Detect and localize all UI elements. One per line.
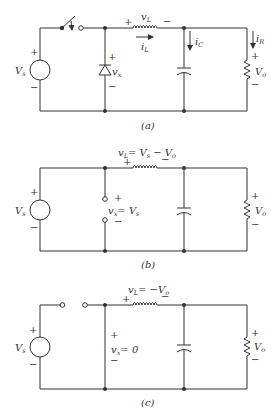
inductor-current-label: iL	[141, 41, 149, 54]
inductor-minus: −	[163, 16, 171, 27]
source-label: Vs	[15, 65, 26, 78]
output-minus: −	[251, 354, 259, 365]
output-label: Vo	[255, 205, 266, 218]
source-label: Vs	[15, 342, 26, 355]
vx-plus: +	[114, 192, 122, 203]
source-label: Vs	[15, 205, 26, 218]
switch-icon	[60, 16, 83, 30]
inductor-voltage-label: vL	[141, 11, 151, 24]
voltage-source-icon	[30, 28, 50, 111]
diode-minus: −	[108, 81, 116, 92]
output-label: Vo	[254, 341, 265, 354]
voltage-source-icon	[30, 168, 50, 251]
inductor-icon	[133, 166, 247, 169]
open-terminals-icon	[103, 168, 108, 251]
output-plus: +	[251, 190, 259, 201]
res-current-label: iR	[256, 33, 264, 46]
caption-c: (c)	[141, 397, 155, 408]
capacitor-icon	[177, 28, 191, 111]
resistor-icon	[244, 28, 250, 111]
source-minus: −	[29, 359, 37, 370]
diode-icon	[99, 28, 111, 111]
source-plus: +	[30, 46, 38, 57]
capacitor-icon	[177, 305, 191, 389]
source-plus: +	[30, 186, 38, 197]
inductor-plus: +	[124, 16, 132, 27]
resistor-icon	[244, 168, 250, 251]
resistor-icon	[244, 305, 250, 389]
source-plus: +	[29, 324, 37, 335]
output-minus: −	[251, 79, 259, 90]
voltage-source-icon	[30, 305, 50, 389]
diode-plus: +	[108, 51, 116, 62]
vx-equation: vx= Vs	[108, 205, 140, 218]
buck-converter-diagram: + − Vs + vx − + vL − iL	[0, 0, 279, 420]
output-plus: +	[251, 327, 259, 338]
capacitor-icon	[177, 168, 191, 251]
source-minus: −	[30, 82, 38, 93]
open-switch-icon	[40, 303, 133, 308]
diode-voltage-label: vx	[112, 66, 122, 79]
inductor-icon	[133, 303, 247, 306]
caption-a: (a)	[141, 120, 155, 131]
vx-plus: +	[110, 329, 118, 340]
caption-b: (b)	[141, 259, 155, 270]
output-label: Vo	[255, 66, 266, 79]
output-plus: +	[251, 50, 259, 61]
cap-current-label: iC	[195, 36, 203, 49]
vx-minus: −	[110, 355, 118, 366]
panel-b: + − Vs + vx= Vs − + − vL= Vs − Vo	[15, 147, 266, 270]
panel-c: + − Vs + vx= 0 − + − vL= −Vo	[15, 284, 265, 408]
output-minus: −	[251, 219, 259, 230]
panel-a: + − Vs + vx − + vL − iL	[15, 11, 266, 131]
vx-minus: −	[114, 216, 122, 227]
source-minus: −	[30, 222, 38, 233]
inductor-icon	[133, 26, 247, 29]
